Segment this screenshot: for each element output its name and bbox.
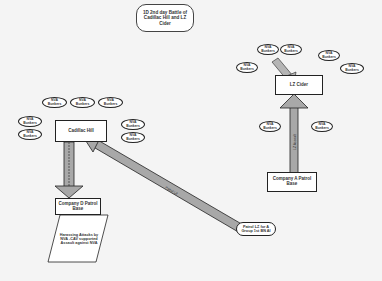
arrow-company-a-to-lz-cider: LZ Assault	[280, 94, 308, 174]
node-cadillac-hill: Cadillac Hill	[55, 120, 107, 142]
bunker-lz-6: NVA Bunkers	[259, 121, 281, 132]
bunker-ch-right-1: NVA Bunkers	[121, 119, 145, 130]
diagram-title: 1D 2nd day Battle of Cadillac Hill and L…	[136, 4, 194, 32]
arrow-cadillac-to-company-d	[55, 142, 83, 198]
node-company-d: Company D Patrol Base	[55, 198, 101, 215]
node-patrol-lz: Patrol LZ for A Group 1st BN AI	[236, 222, 276, 236]
bunker-ch-right-2: NVA Bunkers	[121, 132, 145, 143]
bunker-ch-left-2: NVA Bunkers	[18, 129, 42, 140]
node-company-a: Company A Patrol Base	[267, 172, 317, 192]
bunker-lz-1: NVA Bunkers	[257, 44, 279, 55]
diagram-canvas: Patrol LZ LZ Assault 1D 2nd day Battle o…	[0, 0, 382, 281]
bunker-ch-top-1: NVA Bunkers	[42, 97, 67, 108]
svg-text:LZ Assault: LZ Assault	[293, 134, 297, 150]
bunker-lz-7: NVA Bunkers	[311, 121, 333, 132]
node-harassing: Harassing Attacks by NVA -CAV supported …	[58, 218, 100, 260]
bunker-lz-3: NVA Bunkers	[318, 50, 340, 61]
node-lz-cider: LZ Cider	[275, 75, 323, 95]
arrow-patrol-to-cadillac: Patrol LZ	[84, 138, 245, 233]
bunker-lz-4: NVA Bunkers	[236, 62, 258, 73]
bunker-ch-top-3: NVA Bunkers	[98, 97, 123, 108]
bunker-lz-5: NVA Bunkers	[340, 63, 364, 74]
bunker-ch-top-2: NVA Bunkers	[70, 97, 95, 108]
bunker-ch-left-1: NVA Bunkers	[18, 116, 42, 127]
bunker-lz-2: NVA Bunkers	[280, 44, 302, 55]
